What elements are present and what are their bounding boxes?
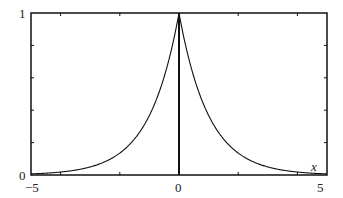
y-tick-label-1: 1 xyxy=(19,6,26,21)
x-tick-label-max: 5 xyxy=(317,180,324,195)
chart: 1 0 −5 0 5 x xyxy=(0,0,343,198)
x-tick-label-min: −5 xyxy=(25,180,39,195)
x-axis-label: x xyxy=(310,159,317,174)
x-tick-label-0: 0 xyxy=(175,180,182,195)
